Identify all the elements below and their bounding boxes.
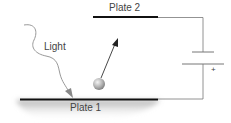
light-ray-icon [24,25,69,92]
light-arrowhead-icon [65,88,73,98]
circuit-wire-bottom [158,64,203,99]
light-label: Light [44,42,66,52]
plate-2-label: Plate 2 [109,3,140,13]
trajectory-arrowhead-icon [112,38,118,47]
electron-trajectory-arrow [101,44,115,78]
diagram-canvas [0,0,231,123]
electron-ball [93,78,105,90]
battery-positive-label: + [211,66,216,74]
circuit-wire-top [158,18,203,53]
plate-1-label: Plate 1 [70,103,101,113]
